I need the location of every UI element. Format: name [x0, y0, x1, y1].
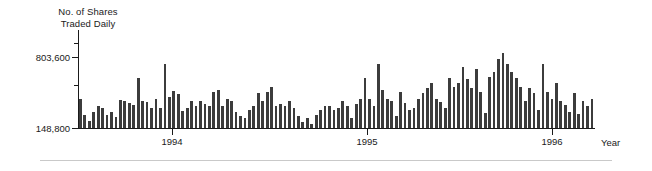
x-tick-mark — [367, 128, 368, 135]
bar — [506, 64, 509, 128]
bar — [564, 105, 567, 128]
bar — [470, 88, 473, 128]
y-tick-label: 148,800 — [36, 123, 70, 134]
bar — [315, 115, 318, 128]
bar — [355, 104, 358, 128]
bar — [359, 99, 362, 128]
y-axis-title: No. of Shares Traded Daily — [34, 6, 142, 29]
bar — [172, 91, 175, 128]
bar — [333, 110, 336, 128]
bar — [123, 101, 126, 128]
bar — [466, 79, 469, 128]
bar — [261, 101, 264, 128]
bar — [244, 118, 247, 128]
bar — [221, 106, 224, 128]
bar — [337, 108, 340, 128]
bar — [132, 105, 135, 128]
share-volume-bar-chart: No. of Shares Traded Daily 803,600148,80… — [0, 0, 652, 171]
bar — [453, 87, 456, 128]
bar — [484, 113, 487, 128]
bar — [155, 99, 158, 128]
x-tick-label: 1995 — [356, 136, 377, 147]
bar — [293, 108, 296, 128]
bar — [591, 99, 594, 128]
bar — [346, 106, 349, 128]
bar — [288, 101, 291, 128]
bar — [79, 99, 82, 128]
bar — [524, 101, 527, 128]
bar — [297, 116, 300, 128]
bar — [92, 112, 95, 128]
bar — [479, 92, 482, 128]
bar — [350, 118, 353, 128]
bar — [586, 106, 589, 128]
bar — [239, 116, 242, 128]
bar — [408, 110, 411, 128]
bar — [368, 99, 371, 128]
bar — [341, 101, 344, 128]
bar — [364, 78, 367, 128]
bar — [204, 104, 207, 128]
bar — [328, 106, 331, 128]
bar — [252, 106, 255, 128]
x-tick-label: 1996 — [541, 136, 562, 147]
bar — [83, 115, 86, 128]
bar — [377, 64, 380, 128]
bar — [488, 77, 491, 128]
bar — [137, 78, 140, 128]
bar — [319, 110, 322, 128]
bar — [577, 114, 580, 128]
bar — [528, 88, 531, 128]
bar — [373, 106, 376, 128]
bar-series — [79, 30, 595, 128]
bar — [417, 99, 420, 128]
bar — [195, 106, 198, 128]
bar — [551, 99, 554, 128]
bar — [248, 110, 251, 128]
bar — [515, 78, 518, 128]
bar — [257, 93, 260, 128]
bar — [168, 97, 171, 128]
y-tick-mark — [72, 128, 79, 129]
bar — [284, 106, 287, 128]
bar — [270, 87, 273, 128]
bar — [208, 106, 211, 128]
y-axis-title-line-1: No. of Shares — [34, 6, 142, 18]
bar — [217, 90, 220, 128]
bar — [444, 108, 447, 128]
bar — [119, 100, 122, 128]
bar — [573, 93, 576, 128]
bar — [502, 53, 505, 128]
bar — [199, 101, 202, 128]
bar — [235, 112, 238, 128]
bar — [230, 101, 233, 128]
bar — [97, 106, 100, 128]
bar — [537, 110, 540, 128]
x-tick-mark — [552, 128, 553, 135]
x-axis-title: Year — [601, 137, 620, 148]
bar — [279, 104, 282, 128]
bar — [422, 93, 425, 128]
bar — [555, 83, 558, 128]
bar — [413, 108, 416, 128]
bar — [462, 67, 465, 128]
bar — [266, 92, 269, 128]
bar — [226, 99, 229, 128]
bar — [310, 124, 313, 128]
bar — [582, 101, 585, 128]
bar — [399, 92, 402, 128]
bar — [386, 99, 389, 128]
bar — [106, 115, 109, 128]
bar — [533, 93, 536, 128]
bar — [559, 101, 562, 128]
bar — [546, 92, 549, 128]
bar — [88, 121, 91, 128]
bar — [324, 106, 327, 128]
bar — [395, 116, 398, 128]
bar — [159, 108, 162, 128]
x-tick-mark — [172, 128, 173, 135]
bar — [381, 90, 384, 128]
footer-divider — [40, 160, 612, 161]
bar — [497, 59, 500, 128]
x-tick-label: 1994 — [161, 136, 182, 147]
